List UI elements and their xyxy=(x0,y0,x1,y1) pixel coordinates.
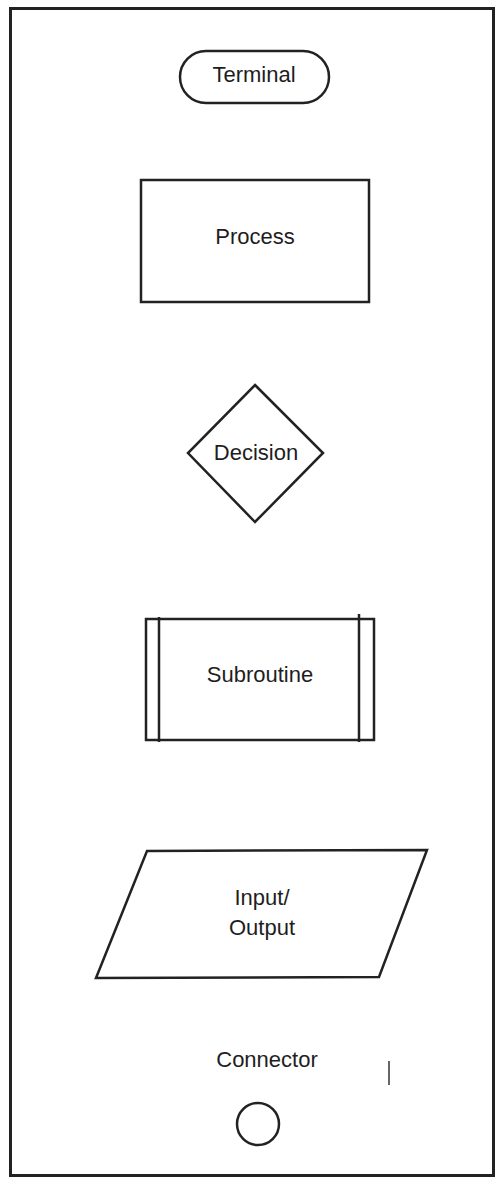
connector-label: Connector xyxy=(216,1046,318,1074)
subroutine-label: Subroutine xyxy=(207,661,313,689)
input-output-label-line2: Output xyxy=(229,914,295,942)
terminal-label: Terminal xyxy=(212,61,295,89)
process-label: Process xyxy=(215,223,294,251)
input-output-label-line1: Input/ xyxy=(234,884,289,912)
connector-shape xyxy=(237,1103,279,1145)
decision-label: Decision xyxy=(214,439,298,467)
